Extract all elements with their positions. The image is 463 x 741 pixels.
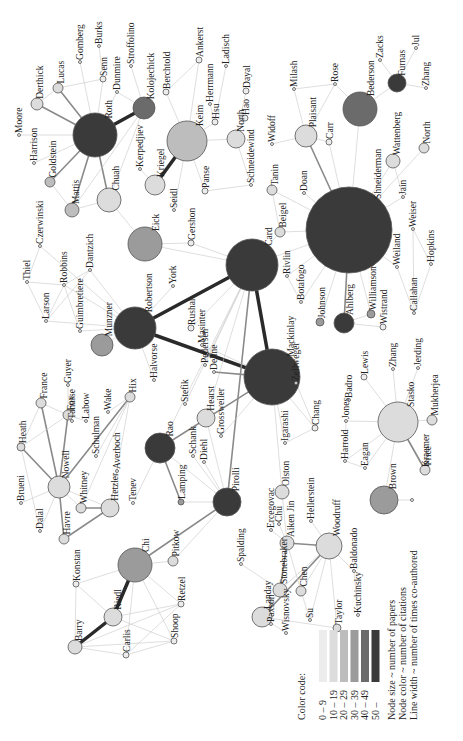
author-node[interactable] — [412, 228, 415, 231]
author-node[interactable] — [392, 368, 395, 371]
author-node[interactable] — [300, 301, 303, 304]
author-node[interactable] — [132, 502, 135, 505]
author-node[interactable] — [396, 266, 399, 269]
author-node[interactable] — [116, 91, 119, 94]
author-node[interactable] — [370, 486, 398, 514]
author-node[interactable] — [167, 121, 207, 161]
author-node[interactable] — [379, 59, 382, 62]
author-node[interactable] — [250, 184, 253, 187]
author-node[interactable] — [36, 398, 46, 408]
author-node[interactable] — [31, 98, 43, 110]
author-node[interactable] — [378, 402, 418, 442]
author-node[interactable] — [271, 143, 274, 146]
author-node[interactable] — [295, 382, 298, 385]
author-node[interactable] — [45, 177, 55, 187]
author-node[interactable] — [171, 638, 177, 644]
author-node[interactable] — [203, 461, 206, 464]
author-node[interactable] — [204, 364, 207, 367]
author-node[interactable] — [101, 499, 119, 517]
author-node[interactable] — [345, 420, 348, 423]
author-node[interactable] — [334, 83, 337, 86]
author-node[interactable] — [295, 125, 317, 147]
author-node[interactable] — [139, 168, 142, 171]
author-node[interactable] — [73, 581, 79, 587]
author-node[interactable] — [278, 523, 281, 526]
author-node[interactable] — [128, 227, 162, 261]
author-node[interactable] — [197, 409, 215, 427]
author-node[interactable] — [275, 227, 285, 237]
author-node[interactable] — [26, 281, 29, 284]
author-node[interactable] — [309, 619, 312, 622]
author-node[interactable] — [326, 139, 332, 145]
author-node[interactable] — [33, 162, 36, 165]
author-node[interactable] — [267, 185, 277, 195]
author-node[interactable] — [184, 403, 187, 406]
author-node[interactable] — [310, 520, 313, 523]
author-node[interactable] — [107, 411, 110, 414]
author-node[interactable] — [357, 614, 360, 617]
author-node[interactable] — [97, 188, 121, 212]
author-node[interactable] — [380, 324, 386, 330]
author-node[interactable] — [123, 652, 129, 658]
author-node[interactable] — [312, 425, 318, 431]
author-node[interactable] — [388, 74, 406, 92]
author-node[interactable] — [172, 285, 175, 288]
author-node[interactable] — [145, 433, 175, 463]
author-node[interactable] — [173, 209, 176, 212]
author-node[interactable] — [303, 192, 306, 195]
author-node[interactable] — [225, 65, 228, 68]
author-node[interactable] — [344, 460, 347, 463]
author-node[interactable] — [243, 88, 249, 94]
author-node[interactable] — [85, 420, 88, 423]
author-node[interactable] — [386, 154, 400, 168]
author-node[interactable] — [192, 455, 195, 458]
author-node[interactable] — [79, 61, 82, 64]
author-node[interactable] — [202, 188, 208, 194]
author-node[interactable] — [59, 534, 69, 544]
author-node[interactable] — [285, 632, 288, 635]
author-node[interactable] — [68, 640, 82, 654]
author-node[interactable] — [73, 113, 117, 157]
author-node[interactable] — [286, 275, 289, 278]
author-node[interactable] — [178, 601, 184, 607]
author-node[interactable] — [293, 88, 296, 91]
author-node[interactable] — [415, 47, 418, 50]
author-node[interactable] — [402, 196, 405, 199]
author-node[interactable] — [163, 89, 169, 95]
author-node[interactable] — [240, 563, 243, 566]
author-node[interactable] — [17, 443, 25, 451]
author-node[interactable] — [427, 415, 437, 425]
author-node[interactable] — [306, 187, 392, 273]
author-node[interactable] — [20, 502, 23, 505]
author-node[interactable] — [296, 586, 306, 596]
author-node[interactable] — [188, 325, 194, 331]
author-node[interactable] — [212, 119, 218, 125]
author-node[interactable] — [67, 384, 70, 387]
author-node[interactable] — [98, 45, 101, 48]
author-node[interactable] — [18, 134, 21, 137]
author-node[interactable] — [76, 503, 86, 513]
author-node[interactable] — [275, 485, 289, 499]
author-node[interactable] — [100, 76, 106, 82]
author-node[interactable] — [178, 499, 184, 505]
author-node[interactable] — [39, 530, 42, 533]
author-node[interactable] — [364, 467, 367, 470]
author-node[interactable] — [425, 87, 428, 90]
author-node[interactable] — [188, 240, 194, 246]
author-node[interactable] — [130, 65, 133, 68]
author-node[interactable] — [343, 92, 377, 126]
author-node[interactable] — [118, 548, 152, 582]
author-node[interactable] — [95, 455, 98, 458]
author-node[interactable] — [334, 313, 354, 333]
author-node[interactable] — [89, 269, 92, 272]
author-node[interactable] — [213, 488, 241, 516]
author-node[interactable] — [125, 392, 135, 402]
author-node[interactable] — [220, 435, 223, 438]
author-node[interactable] — [45, 320, 48, 323]
author-node[interactable] — [270, 623, 273, 626]
author-node[interactable] — [153, 379, 156, 382]
author-node[interactable] — [419, 143, 429, 153]
author-node[interactable] — [417, 367, 420, 370]
author-node[interactable] — [316, 318, 324, 326]
author-node[interactable] — [270, 529, 273, 532]
